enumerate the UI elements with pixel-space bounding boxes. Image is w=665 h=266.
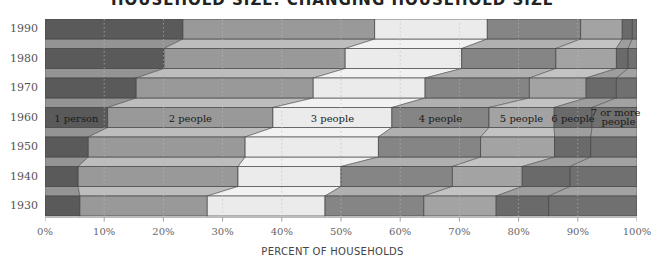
connector-segment [45, 187, 80, 197]
chart-title: HOUSEHOLD SIZE: CHANGING HOUSEHOLD SIZE [0, 0, 665, 9]
bar-segment [591, 137, 637, 157]
bar-segment [496, 196, 549, 216]
connector-segment [481, 128, 555, 138]
x-tick-label: 80% [507, 226, 529, 237]
bar-segment [452, 167, 522, 187]
segment-label-p1: 1 person [54, 113, 98, 122]
x-tick-label: 10% [93, 226, 115, 237]
bar-segment [45, 167, 78, 187]
bar-segment [462, 49, 556, 69]
bar-segment [581, 19, 622, 39]
bar-segment [45, 78, 136, 98]
x-tick-label: 30% [211, 226, 233, 237]
bar-segment [555, 137, 591, 157]
bar-segment [45, 19, 183, 39]
bar-segment [341, 167, 452, 187]
bar-segment [616, 78, 637, 98]
bar-segment [556, 49, 616, 69]
x-tick-label: 50% [330, 226, 352, 237]
y-tick-label: 1930 [0, 199, 38, 212]
segment-label-p2: 2 people [169, 113, 212, 122]
segment-label-p5: 5 people [500, 113, 543, 122]
x-tick-label: 60% [389, 226, 411, 237]
bar-segment [487, 19, 581, 39]
bar-segment [45, 137, 88, 157]
bar-segment [80, 196, 207, 216]
bar-segment [207, 196, 325, 216]
x-tick-label: 40% [271, 226, 293, 237]
bar-segment [345, 49, 462, 69]
connector-segment [554, 128, 592, 138]
y-tick-label: 1950 [0, 140, 38, 153]
y-tick-label: 1990 [0, 22, 38, 35]
bar-segment [616, 49, 628, 69]
bar-segment [164, 49, 345, 69]
bar-segment [245, 137, 378, 157]
connector-segment [45, 39, 183, 49]
bar-segment [425, 78, 529, 98]
y-tick-label: 1960 [0, 111, 38, 124]
segment-label-p4: 4 people [419, 113, 462, 122]
bar-segment [628, 49, 637, 69]
bar-segment [88, 137, 245, 157]
connector-segment [78, 157, 245, 167]
connector-segment [591, 128, 637, 138]
x-tick-label: 0% [37, 226, 53, 237]
bar-segment [325, 196, 424, 216]
connector-segment [164, 39, 375, 49]
x-tick-label: 20% [152, 226, 174, 237]
bar-segment [632, 19, 637, 39]
bar-segment [549, 196, 637, 216]
bar-segment [570, 167, 637, 187]
bar-segment [136, 78, 313, 98]
bar-segment [45, 196, 80, 216]
segment-label-p6: 6 people [551, 113, 594, 122]
connector-segment [136, 69, 345, 79]
bar-segment [586, 78, 616, 98]
y-tick-label: 1970 [0, 81, 38, 94]
bar-segment [375, 19, 487, 39]
y-tick-label: 1940 [0, 170, 38, 183]
bar-segment [78, 167, 238, 187]
bar-segment [238, 167, 341, 187]
y-tick-label: 1980 [0, 52, 38, 65]
x-axis-title: PERCENT OF HOUSEHOLDS [0, 246, 665, 257]
connector-segment [88, 128, 273, 138]
bar-segment [622, 19, 632, 39]
bar-segment [481, 137, 555, 157]
segment-label-p3: 3 people [311, 113, 354, 122]
segment-label-p7: 7 or morepeople [591, 108, 641, 126]
bar-segment [522, 167, 570, 187]
connector-segment [378, 128, 489, 138]
bar-segment [378, 137, 480, 157]
bar-segment [313, 78, 425, 98]
x-tick-label: 70% [448, 226, 470, 237]
x-tick-label: 100% [623, 226, 652, 237]
bar-segment [424, 196, 496, 216]
x-tick-label: 90% [567, 226, 589, 237]
bar-segment [183, 19, 375, 39]
